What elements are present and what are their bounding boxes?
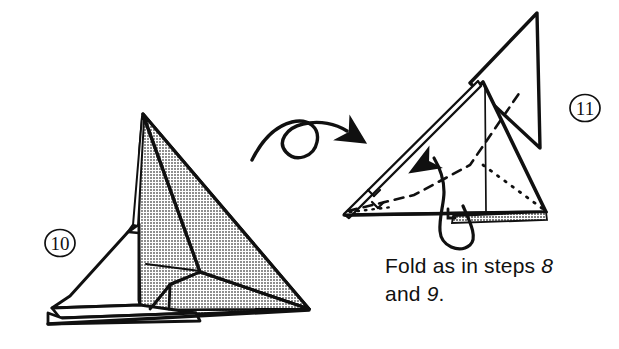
figure-10-group: 10 <box>45 114 309 324</box>
caption-line2-suffix: . <box>439 282 445 305</box>
caption-line2-prefix: and <box>385 282 427 305</box>
caption-line2-number: 9 <box>427 282 439 305</box>
figure-10-flap-crease <box>169 285 170 309</box>
instruction-caption: Fold as in steps 8and 9. <box>385 252 610 308</box>
figure-11-group: 11 <box>344 13 600 249</box>
turn-over-arrow-loop <box>252 121 347 160</box>
step-number-11-text: 11 <box>576 98 594 119</box>
caption-line1-prefix: Fold as in steps <box>385 254 541 277</box>
step-number-11: 11 <box>570 95 600 122</box>
step-number-10: 10 <box>45 230 75 257</box>
origami-instruction-page: 10 <box>0 0 619 349</box>
turn-over-arrow <box>252 121 347 160</box>
figure-11-vertical-crease <box>485 85 486 212</box>
step-number-10-text: 10 <box>51 233 70 254</box>
caption-line1-number: 8 <box>541 254 553 277</box>
